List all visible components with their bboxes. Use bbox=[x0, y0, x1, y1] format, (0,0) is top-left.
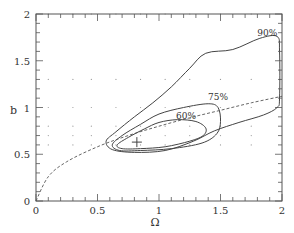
contour-label: 90% bbox=[257, 28, 277, 38]
x-tick-label: 1.5 bbox=[213, 205, 229, 216]
y-tick-label: 0 bbox=[24, 196, 30, 207]
x-tick-label: 0 bbox=[33, 205, 39, 216]
contours: 60%75%90% bbox=[106, 28, 280, 153]
x-axis-label: Ω bbox=[150, 216, 159, 229]
best-fit-marker bbox=[132, 137, 142, 147]
contour-line bbox=[117, 120, 206, 149]
contour-label: 60% bbox=[176, 111, 196, 121]
contour-chart: 00.511.5200.511.52 60%75%90% Ω b bbox=[0, 0, 294, 233]
tick-labels: 00.511.5200.511.52 bbox=[14, 9, 285, 216]
y-axis-label: b bbox=[10, 104, 17, 117]
y-tick-label: 2 bbox=[24, 9, 30, 20]
x-tick-label: 2 bbox=[279, 205, 285, 216]
contour-line bbox=[112, 104, 220, 151]
x-tick-label: 1 bbox=[156, 205, 162, 216]
y-tick-label: 1.5 bbox=[14, 56, 30, 67]
y-tick-label: 0.5 bbox=[14, 149, 30, 160]
contour-label: 75% bbox=[208, 92, 228, 102]
x-tick-label: 0.5 bbox=[90, 205, 106, 216]
y-tick-label: 1 bbox=[24, 103, 30, 114]
dashed-curve bbox=[36, 96, 282, 201]
